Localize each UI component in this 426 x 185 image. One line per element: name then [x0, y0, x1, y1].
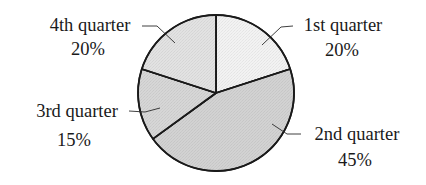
slice-label-name: 3rd quarter — [36, 101, 118, 121]
slice-label-percent: 45% — [338, 150, 372, 170]
slice-label-q3: 3rd quarter 15% — [36, 101, 118, 150]
pie-chart: 1st quarter 20% 2nd quarter 45% 3rd quar… — [0, 0, 426, 185]
slice-label-name: 2nd quarter — [315, 124, 400, 144]
slice-label-name: 1st quarter — [304, 15, 383, 35]
slice-label-percent: 20% — [325, 40, 359, 60]
slice-label-percent: 20% — [71, 39, 105, 59]
pie-slices — [138, 15, 294, 171]
slice-label-name: 4th quarter — [50, 15, 131, 35]
slice-label-percent: 15% — [57, 130, 91, 150]
slice-label-q4: 4th quarter 20% — [50, 15, 131, 59]
slice-label-q1: 1st quarter 20% — [304, 15, 383, 60]
slice-label-q2: 2nd quarter 45% — [315, 124, 400, 170]
